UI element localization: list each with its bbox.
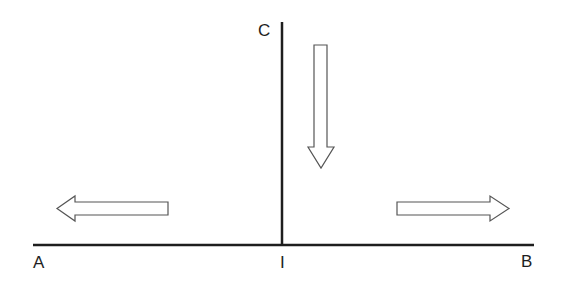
label-a: A [33, 253, 45, 272]
label-b: B [521, 252, 532, 271]
label-i: I [280, 253, 285, 272]
right-arrow-icon [397, 196, 509, 221]
diagram-canvas: A B C I [0, 0, 562, 283]
down-arrow-icon [308, 45, 334, 168]
label-c: C [258, 21, 270, 40]
left-arrow-icon [57, 196, 168, 221]
